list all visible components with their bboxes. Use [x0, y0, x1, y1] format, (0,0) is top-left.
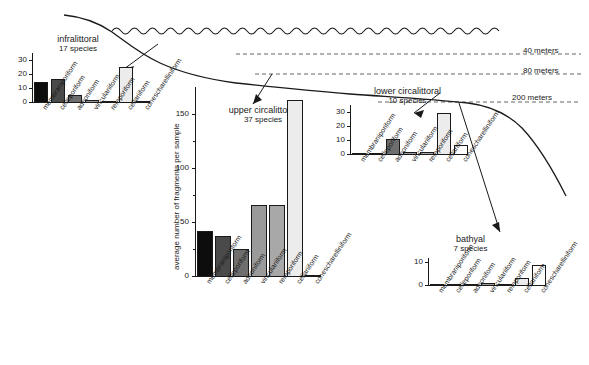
ytick-label-50: 50	[167, 217, 189, 226]
ytick-label-10: 10	[325, 135, 345, 144]
panel-title-text: infralittoral	[18, 34, 138, 44]
y-axis-title-upper-circalittoral: average number of fragments per sample	[172, 123, 181, 270]
y-axis-bathyal	[428, 258, 429, 286]
ytick-0	[192, 276, 195, 277]
ytick-10	[425, 262, 428, 263]
ytick-30	[29, 60, 32, 61]
sea-surface-wave-icon	[112, 28, 499, 34]
ytick-10	[347, 140, 350, 141]
ytick-50	[192, 222, 195, 223]
bryozoan-depth-zonation-figure: 40 meters 80 meters 200 meters infralitt…	[0, 0, 589, 365]
ytick-10	[29, 88, 32, 89]
ytick-label-20: 20	[325, 121, 345, 130]
ytick-0	[425, 285, 428, 286]
plot-area-infralittoral: 0 10 20 30 membraniporiform celleporifor…	[32, 57, 148, 103]
ytick-label-0: 0	[7, 97, 27, 106]
ytick-30	[347, 112, 350, 113]
y-axis-infralittoral	[32, 53, 33, 103]
ytick-minor-125	[193, 141, 195, 142]
plot-area-bathyal: 0 10 membraniporiform celleporiform adeo…	[428, 260, 546, 286]
plot-area-upper-circalittoral: 0 50 100 150 membraniporiform celleporif…	[195, 87, 320, 277]
ytick-minor-75	[193, 195, 195, 196]
bar-group-upper-circalittoral	[195, 87, 320, 277]
ytick-label-0: 0	[167, 271, 189, 280]
ytick-label-100: 100	[167, 163, 189, 172]
panel-infralittoral: infralittoral 17 species 0 10 20	[0, 34, 165, 144]
ytick-20	[29, 74, 32, 75]
depth-label-200m: 200 meters	[512, 93, 552, 102]
ytick-label-20: 20	[7, 69, 27, 78]
ytick-100	[192, 168, 195, 169]
panel-title-infralittoral: infralittoral 17 species	[18, 34, 138, 54]
ytick-label-150: 150	[167, 109, 189, 118]
panel-upper-circalittoral: upper circalittoral 37 species average n…	[170, 85, 345, 360]
ytick-0	[29, 102, 32, 103]
panel-title-lower-circalittoral: lower circalittoral 10 species	[340, 86, 475, 106]
depth-label-40m: 40 meters	[523, 46, 559, 55]
ytick-0	[347, 154, 350, 155]
y-axis-lower-circalittoral	[350, 105, 351, 155]
panel-title-text: lower circalittoral	[340, 86, 475, 96]
ytick-label-0: 0	[325, 149, 345, 158]
plot-area-lower-circalittoral: 0 10 20 30 membraniporiform celleporifor…	[350, 109, 468, 155]
panel-bathyal: bathyal 7 species 0 10 membraniporiform …	[398, 234, 583, 359]
ytick-150	[192, 114, 195, 115]
panel-lower-circalittoral: lower circalittoral 10 species 0 10 20	[322, 86, 492, 196]
panel-subtitle-text: 10 species	[340, 96, 475, 105]
panel-subtitle-text: 17 species	[18, 44, 138, 53]
ytick-label-0: 0	[403, 280, 423, 289]
ytick-label-30: 30	[7, 55, 27, 64]
ytick-label-10: 10	[403, 257, 423, 266]
panel-title-text: bathyal	[418, 234, 523, 244]
ytick-label-10: 10	[7, 83, 27, 92]
ytick-20	[347, 126, 350, 127]
y-axis-upper-circalittoral	[195, 87, 196, 277]
depth-label-80m: 80 meters	[523, 66, 559, 75]
ytick-label-30: 30	[325, 107, 345, 116]
bar-membraniporiform	[197, 231, 213, 277]
ytick-minor-25	[193, 249, 195, 250]
